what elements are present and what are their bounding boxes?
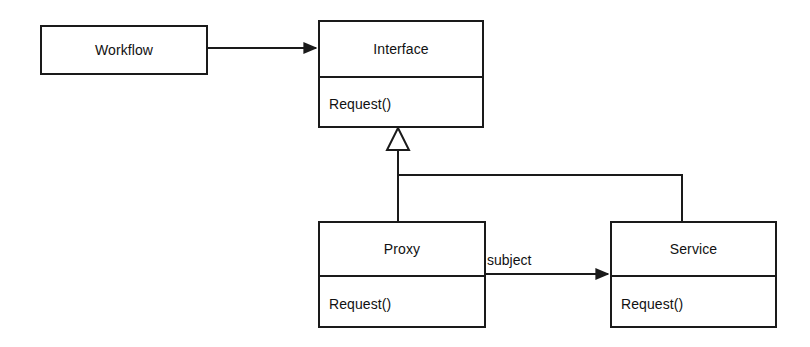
class-operation-service-request: Request() [612, 275, 775, 330]
class-operation-proxy-request: Request() [320, 275, 484, 330]
class-box-service[interactable]: Service Request() [610, 221, 777, 328]
class-box-proxy[interactable]: Proxy Request() [318, 221, 486, 328]
hollow-triangle-icon [387, 128, 409, 150]
class-box-workflow[interactable]: Workflow [40, 25, 208, 75]
class-name-proxy: Proxy [320, 223, 484, 275]
edge-label-subject: subject [487, 252, 531, 268]
class-box-interface[interactable]: Interface Request() [318, 20, 484, 128]
class-name-interface: Interface [320, 22, 482, 76]
class-operation-interface-request: Request() [320, 76, 482, 130]
class-name-service: Service [612, 223, 775, 275]
uml-class-diagram-canvas: Interface (association with filled arrow… [0, 0, 810, 347]
class-name-workflow: Workflow [42, 27, 206, 73]
